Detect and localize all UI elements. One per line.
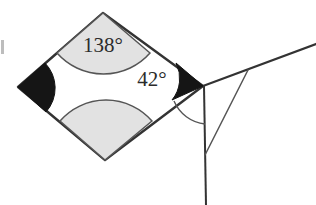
top-angle-label: 138° [83,33,123,57]
upper-ray-line [203,44,316,86]
geometry-canvas: 138° 42° [0,0,316,205]
vertical-line [204,86,206,205]
right-angle-label: 42° [137,67,166,91]
bottom-angle-sector [60,100,152,160]
left-angle-solid-marker [18,63,55,112]
left-edge-clipped-mark [1,40,4,54]
geometry-diagram: 138° 42° [0,0,316,205]
